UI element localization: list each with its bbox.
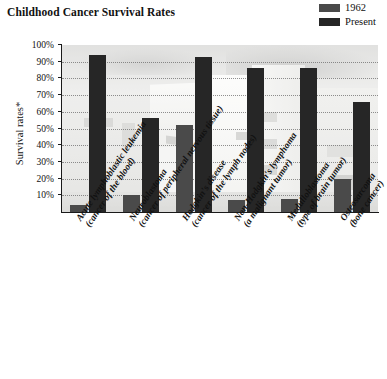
y-tick-label-30: 30%	[37, 157, 54, 167]
chart-legend: 1962 Present	[319, 2, 376, 28]
y-tick-label-100: 100%	[32, 40, 54, 50]
y-tick-label-60: 60%	[37, 107, 54, 117]
legend-label-present: Present	[345, 16, 376, 28]
legend-item-1962: 1962	[319, 2, 376, 14]
y-tick-mark-90	[58, 61, 61, 62]
y-tick-label-70: 70%	[37, 90, 54, 100]
y-tick-mark-50	[58, 128, 61, 129]
y-axis-tick-labels: 10%20%30%40%50%60%70%80%90%100%	[0, 45, 58, 212]
y-tick-mark-60	[58, 111, 61, 112]
y-tick-mark-100	[58, 44, 61, 45]
y-tick-mark-80	[58, 77, 61, 78]
y-tick-label-50: 50%	[37, 124, 54, 134]
y-tick-mark-70	[58, 94, 61, 95]
y-tick-label-10: 10%	[37, 190, 54, 200]
y-tick-label-80: 80%	[37, 73, 54, 83]
y-axis-line	[61, 44, 62, 213]
y-tick-mark-10	[58, 194, 61, 195]
y-tick-mark-40	[58, 144, 61, 145]
y-tick-mark-20	[58, 178, 61, 179]
page-title: Childhood Cancer Survival Rates	[7, 6, 175, 18]
y-tick-mark-30	[58, 161, 61, 162]
y-tick-label-20: 20%	[37, 174, 54, 184]
legend-swatch-1962	[319, 4, 340, 12]
y-tick-label-40: 40%	[37, 140, 54, 150]
y-tick-label-90: 90%	[37, 57, 54, 67]
legend-swatch-present	[319, 18, 340, 26]
x-axis-category-labels: Acute lymphoblastic leukemia(cancer of t…	[0, 213, 382, 379]
legend-item-present: Present	[319, 16, 376, 28]
legend-label-1962: 1962	[345, 2, 366, 14]
